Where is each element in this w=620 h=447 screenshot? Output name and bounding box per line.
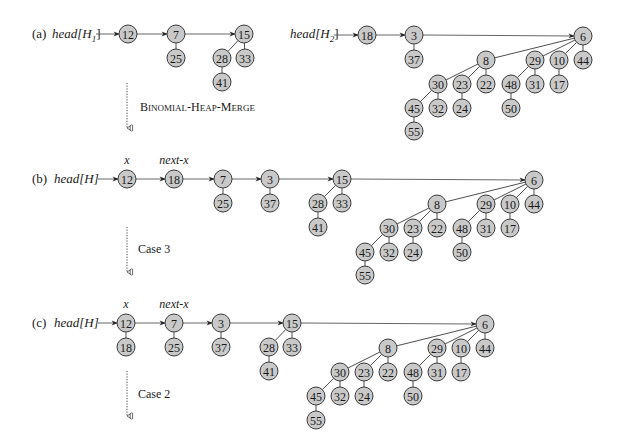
head-pointer-label: head[H1] [52, 26, 101, 44]
node-key: 33 [239, 52, 251, 66]
heap-node-18: 18 [117, 338, 135, 356]
heap-node-6: 6 [476, 315, 494, 333]
node-key: 7 [171, 317, 177, 331]
heap-node-24: 24 [355, 387, 373, 405]
step-label: Case 3 [138, 242, 170, 256]
heap-node-15: 15 [283, 314, 301, 332]
heap-node-28: 28 [260, 338, 278, 356]
heap-node-23: 23 [404, 219, 422, 237]
tree-edge [275, 329, 286, 340]
node-key: 32 [334, 390, 346, 404]
heap-node-41: 41 [213, 73, 231, 91]
node-key: 55 [359, 269, 371, 283]
node-key: 30 [383, 222, 395, 236]
node-key: 3 [218, 317, 224, 331]
node-key: 3 [411, 29, 417, 43]
node-key: 31 [529, 78, 541, 92]
heap-node-32: 32 [380, 243, 398, 261]
heap-node-10: 10 [452, 339, 470, 357]
heap-node-17: 17 [501, 219, 519, 237]
node-key: 55 [408, 125, 420, 139]
heap-node-24: 24 [453, 99, 471, 117]
heap-node-32: 32 [429, 99, 447, 117]
node-key: 3 [267, 173, 273, 187]
pointer-label-x: x [123, 153, 130, 167]
heap-node-48: 48 [404, 363, 422, 381]
head-pointer-label: head[H] [54, 315, 99, 330]
heap-node-17: 17 [452, 363, 470, 381]
tree-edge [228, 41, 238, 52]
node-key: 15 [238, 28, 250, 42]
panel-label: (c) [32, 315, 46, 330]
heap-node-23: 23 [355, 363, 373, 381]
node-key: 24 [358, 390, 370, 404]
node-key: 41 [216, 76, 228, 90]
node-key: 8 [434, 198, 440, 212]
heap-node-3: 3 [261, 170, 279, 188]
node-key: 18 [120, 341, 132, 355]
node-key: 44 [528, 198, 540, 212]
node-key: 6 [580, 30, 586, 44]
heap-node-29: 29 [428, 339, 446, 357]
node-key: 31 [431, 366, 443, 380]
node-key: 23 [456, 78, 468, 92]
heap-node-12: 12 [117, 314, 135, 332]
node-key: 28 [312, 197, 324, 211]
node-key: 17 [553, 78, 565, 92]
node-key: 7 [220, 173, 226, 187]
node-key: 22 [382, 366, 394, 380]
node-key: 48 [407, 366, 419, 380]
heap-node-22: 22 [379, 363, 397, 381]
node-key: 50 [407, 390, 419, 404]
heap-node-29: 29 [526, 51, 544, 69]
node-key: 17 [504, 222, 516, 236]
heap-node-25: 25 [214, 194, 232, 212]
node-key: 18 [168, 173, 180, 187]
node-key: 32 [383, 246, 395, 260]
heap-node-12: 12 [118, 170, 136, 188]
panel-c: (c)head[H]121872533715283341682910443023… [32, 297, 494, 429]
heap-node-44: 44 [476, 339, 494, 357]
node-key: 17 [455, 366, 467, 380]
heap-node-41: 41 [309, 218, 327, 236]
node-key: 31 [480, 222, 492, 236]
node-key: 29 [480, 198, 492, 212]
heap-node-15: 15 [333, 170, 351, 188]
heap-node-22: 22 [428, 219, 446, 237]
step-label: Case 2 [138, 387, 170, 401]
node-key: 30 [432, 78, 444, 92]
head-pointer-label: head[H2] [290, 26, 339, 44]
tree-edge [517, 66, 528, 77]
heap-node-41: 41 [260, 362, 278, 380]
node-key: 45 [408, 102, 420, 116]
heap-node-31: 31 [428, 363, 446, 381]
node-key: 37 [408, 53, 420, 67]
heap-node-6: 6 [574, 27, 592, 45]
heap-node-30: 30 [429, 75, 447, 93]
heap-node-23: 23 [453, 75, 471, 93]
heap-node-50: 50 [453, 243, 471, 261]
heap-node-55: 55 [307, 411, 325, 429]
node-key: 28 [216, 52, 228, 66]
heap-node-7: 7 [214, 170, 232, 188]
node-key: 10 [553, 54, 565, 68]
heap-node-55: 55 [356, 266, 374, 284]
node-key: 10 [504, 198, 516, 212]
step-label: BINOMIAL-HEAP-MERGE [140, 100, 255, 114]
heap-node-37: 37 [212, 338, 230, 356]
node-key: 30 [334, 366, 346, 380]
heap-node-6: 6 [525, 171, 543, 189]
node-key: 22 [480, 78, 492, 92]
node-key: 28 [263, 341, 275, 355]
head-pointer-label: head[H] [54, 171, 99, 186]
tree-edge [371, 234, 382, 245]
heap-node-24: 24 [404, 243, 422, 261]
node-key: 37 [264, 197, 276, 211]
node-key: 33 [286, 341, 298, 355]
node-key: 41 [312, 221, 324, 235]
node-key: 25 [170, 52, 182, 66]
heap-node-55: 55 [405, 122, 423, 140]
heap-node-18: 18 [165, 170, 183, 188]
heap-node-22: 22 [477, 75, 495, 93]
heap-node-30: 30 [380, 219, 398, 237]
